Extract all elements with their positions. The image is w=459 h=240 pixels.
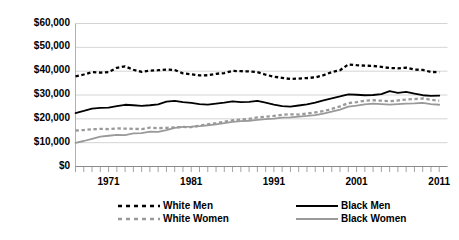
- x-axis-tick-label: 1971: [97, 176, 119, 187]
- x-axis-labels: 19711981199120012011: [0, 176, 459, 192]
- series-line-black-men: [76, 91, 440, 113]
- legend-label: White Women: [163, 213, 229, 224]
- series-line-black-women: [76, 103, 440, 143]
- x-axis-ticks: [76, 167, 440, 173]
- legend-swatch-dashed-line-icon: [118, 201, 160, 211]
- chart-legend: White MenBlack MenWhite WomenBlack Women: [0, 198, 459, 238]
- legend-swatch-solid-line-icon: [296, 214, 338, 224]
- series-line-white-men: [76, 64, 440, 79]
- legend-swatch-dashed-line-icon: [118, 214, 160, 224]
- legend-item[interactable]: White Men: [118, 200, 213, 211]
- series-line-white-women: [76, 98, 440, 130]
- x-axis-tick-label: 2011: [428, 176, 450, 187]
- legend-label: Black Men: [341, 200, 390, 211]
- legend-item[interactable]: Black Men: [296, 200, 390, 211]
- legend-swatch-solid-line-icon: [296, 201, 338, 211]
- x-axis-tick-label: 1981: [180, 176, 202, 187]
- legend-item[interactable]: White Women: [118, 213, 229, 224]
- legend-label: Black Women: [341, 213, 406, 224]
- x-axis-tick-label: 1991: [263, 176, 285, 187]
- chart-container: MEDIAN ANNUAL EARNINGS, 1967-2011 (IN 20…: [0, 0, 459, 240]
- gridlines: [76, 24, 448, 167]
- legend-label: White Men: [163, 200, 213, 211]
- x-axis-tick-label: 2001: [345, 176, 367, 187]
- data-series: [76, 64, 440, 142]
- legend-item[interactable]: Black Women: [296, 213, 406, 224]
